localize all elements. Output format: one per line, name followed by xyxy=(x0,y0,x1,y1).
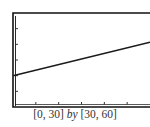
plotted-line xyxy=(13,42,150,76)
viewing-window-frame xyxy=(13,13,150,107)
y-window-range: [30, 60] xyxy=(80,108,116,120)
series-line xyxy=(13,42,150,76)
frame-border xyxy=(13,13,150,107)
axis-ticks xyxy=(16,29,128,105)
graphing-calculator-window xyxy=(0,0,150,108)
x-window-range: [0, 30] xyxy=(33,108,64,120)
window-caption: [0, 30] by [30, 60] xyxy=(0,108,150,120)
by-label: by xyxy=(67,108,78,120)
